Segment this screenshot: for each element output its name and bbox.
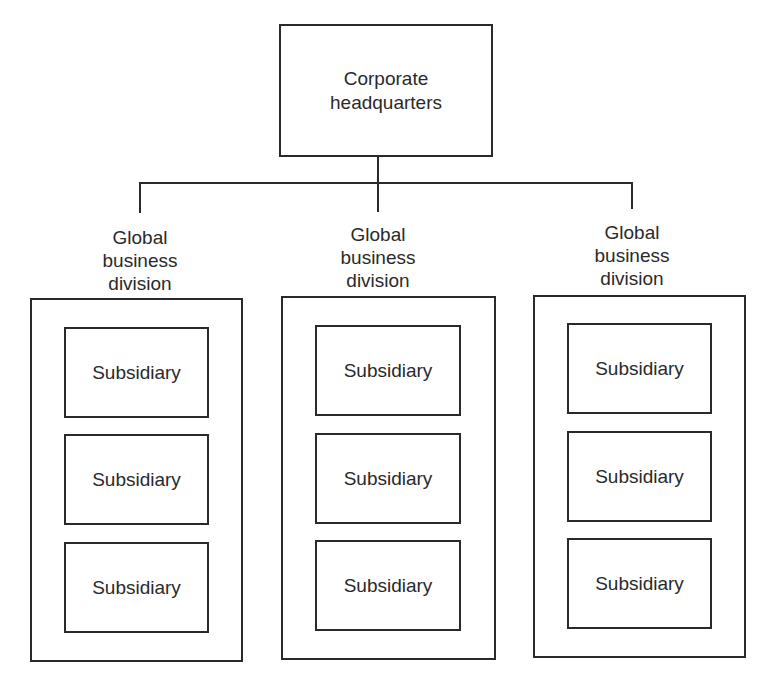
division-3-subsidiary-1: Subsidiary: [567, 323, 712, 414]
division-3-subsidiary-3: Subsidiary: [567, 538, 712, 629]
division-1-subsidiary-1: Subsidiary: [64, 327, 209, 418]
subsidiary-label: Subsidiary: [595, 358, 684, 380]
division-2-subsidiary-1: Subsidiary: [315, 325, 461, 416]
division-label-line: business: [298, 246, 458, 269]
division-3-subsidiary-2: Subsidiary: [567, 431, 712, 522]
corporate-headquarters-box: Corporate headquarters: [279, 24, 493, 157]
subsidiary-label: Subsidiary: [92, 362, 181, 384]
division-label-line: Global: [552, 221, 712, 244]
division-label-line: business: [60, 249, 220, 272]
subsidiary-label: Subsidiary: [344, 468, 433, 490]
division-2-label: Global business division: [298, 223, 458, 292]
division-label-line: division: [298, 269, 458, 292]
subsidiary-label: Subsidiary: [92, 577, 181, 599]
hq-label-line1: Corporate: [330, 67, 442, 91]
division-2-connector: [377, 182, 379, 212]
division-label-line: business: [552, 244, 712, 267]
hq-label-line2: headquarters: [330, 91, 442, 115]
hq-connector-vertical: [377, 157, 379, 184]
division-2-subsidiary-2: Subsidiary: [315, 433, 461, 524]
division-connector-horizontal: [139, 182, 633, 184]
division-3-label: Global business division: [552, 221, 712, 290]
subsidiary-label: Subsidiary: [344, 360, 433, 382]
division-label-line: division: [552, 267, 712, 290]
division-label-line: Global: [60, 226, 220, 249]
subsidiary-label: Subsidiary: [344, 575, 433, 597]
subsidiary-label: Subsidiary: [595, 466, 684, 488]
division-label-line: division: [60, 272, 220, 295]
division-2-subsidiary-3: Subsidiary: [315, 540, 461, 631]
subsidiary-label: Subsidiary: [595, 573, 684, 595]
subsidiary-label: Subsidiary: [92, 469, 181, 491]
division-1-subsidiary-3: Subsidiary: [64, 542, 209, 633]
division-label-line: Global: [298, 223, 458, 246]
division-1-label: Global business division: [60, 226, 220, 295]
division-3-connector: [631, 182, 633, 209]
division-1-connector: [139, 182, 141, 213]
division-1-subsidiary-2: Subsidiary: [64, 434, 209, 525]
